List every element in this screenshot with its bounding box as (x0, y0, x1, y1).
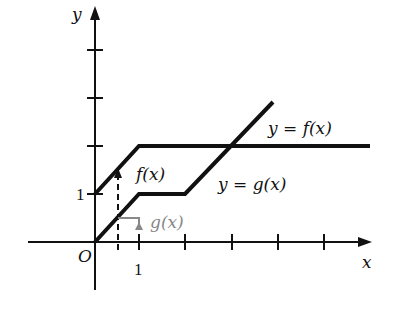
g-value-arrow-icon (135, 222, 143, 230)
y-axis-arrow-icon (90, 6, 100, 20)
x-tick-label: 1 (134, 260, 143, 279)
x-axis-arrow-icon (358, 237, 372, 247)
origin-label: O (78, 246, 92, 266)
g-value-label: g(x) (150, 212, 184, 232)
g-value-bracket (118, 218, 139, 228)
y-tick-label: 1 (76, 185, 85, 204)
f-value-label: f(x) (134, 164, 165, 184)
f-curve-label: y = f(x) (267, 118, 332, 138)
g-curve-label: y = g(x) (217, 174, 286, 194)
g-curve (95, 102, 273, 242)
y-axis-label: y (71, 4, 82, 24)
x-axis-label: x (362, 252, 372, 272)
graph: y x O 1 1 f(x) g(x) y = f(x) y = g(x) (0, 0, 397, 310)
